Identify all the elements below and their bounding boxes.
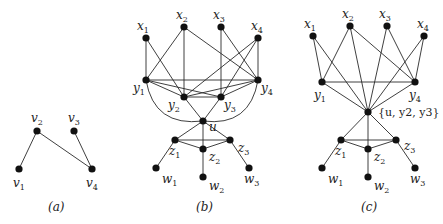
caption-c: (c) — [361, 200, 377, 214]
node-c-x4 — [420, 32, 427, 39]
node-c-z3 — [392, 136, 399, 143]
node-a-v4 — [88, 165, 95, 172]
node-c-z1 — [337, 136, 344, 143]
label-b-x3: x3 — [213, 8, 225, 24]
label-c-z3: z3 — [403, 139, 415, 155]
edge-a-v2-v4 — [37, 131, 92, 169]
label-b-x2: x2 — [176, 8, 188, 24]
label-b-w2: w2 — [209, 179, 224, 195]
figure-graphs: v1v2v3v4x1x2x3x4y1y2y3y4uz1z2z3w1w2w3x1x… — [0, 0, 443, 224]
node-a-v1 — [15, 165, 22, 172]
node-c-w2 — [364, 173, 371, 180]
graph-figure-svg: v1v2v3v4x1x2x3x4y1y2y3y4uz1z2z3w1w2w3x1x… — [0, 0, 443, 224]
label-b-y3: y3 — [223, 98, 236, 114]
node-b-y1 — [142, 76, 149, 83]
edge-b-u-z1 — [175, 121, 203, 140]
node-c-z2 — [364, 145, 371, 152]
label-b-x1: x1 — [137, 19, 149, 35]
label-c-y1: y1 — [313, 88, 326, 104]
edge-b-y3-u — [203, 97, 221, 121]
label-b-w3: w3 — [244, 172, 259, 188]
edge-b-z1-z2 — [175, 140, 203, 149]
label-a-v3: v3 — [68, 111, 80, 127]
label-b-u: u — [209, 120, 217, 134]
label-b-z3: z3 — [237, 141, 249, 157]
node-c-w1 — [318, 164, 325, 171]
node-b-z2 — [199, 145, 206, 152]
node-c-m — [364, 108, 371, 115]
node-b-x1 — [142, 34, 149, 41]
node-c-y1 — [318, 78, 325, 85]
node-b-x4 — [254, 34, 261, 41]
node-b-x2 — [180, 23, 187, 30]
node-b-x3 — [217, 23, 224, 30]
label-c-m: {u, y2, y3} — [378, 106, 440, 119]
edge-c-m-z1 — [341, 112, 368, 140]
node-b-z1 — [171, 136, 178, 143]
node-a-v2 — [33, 127, 40, 134]
edge-c-y1-m — [322, 82, 368, 112]
label-c-z1: z1 — [334, 144, 346, 160]
label-c-w2: w2 — [374, 179, 389, 195]
node-b-u — [199, 117, 206, 124]
label-b-z1: z1 — [168, 144, 180, 160]
label-b-z2: z2 — [208, 150, 220, 166]
label-b-y4: y4 — [260, 81, 273, 97]
label-a-v4: v4 — [86, 176, 98, 192]
node-b-z3 — [226, 136, 233, 143]
node-b-w3 — [245, 164, 252, 171]
edge-b-x2-y1 — [146, 27, 184, 80]
edge-a-v1-v2 — [19, 131, 37, 169]
label-c-y4: y4 — [408, 88, 421, 104]
node-c-w3 — [411, 164, 418, 171]
label-a-v1: v1 — [13, 176, 25, 192]
edge-c-z1-z2 — [341, 140, 368, 149]
label-c-x3: x3 — [379, 7, 391, 23]
label-b-y2: y2 — [167, 98, 180, 114]
node-b-w1 — [152, 164, 159, 171]
label-c-x2: x2 — [342, 7, 354, 23]
caption-b: (b) — [196, 200, 213, 214]
caption-a: (a) — [48, 200, 65, 214]
label-c-x1: x1 — [304, 17, 316, 33]
node-c-x3 — [383, 22, 390, 29]
node-c-y4 — [411, 78, 418, 85]
label-c-z2: z2 — [373, 150, 385, 166]
label-a-v2: v2 — [31, 111, 43, 127]
node-c-x2 — [346, 22, 353, 29]
edge-b-z2-z3 — [203, 140, 230, 149]
label-b-w1: w1 — [162, 172, 177, 188]
edge-c-x4-y4 — [415, 36, 424, 82]
label-c-w1: w1 — [328, 172, 343, 188]
label-c-w3: w3 — [410, 172, 425, 188]
node-b-w2 — [199, 173, 206, 180]
node-b-y2 — [180, 93, 187, 100]
node-a-v3 — [70, 127, 77, 134]
label-b-y1: y1 — [132, 81, 145, 97]
edge-b-x3-y4 — [221, 27, 258, 80]
label-c-x4: x4 — [417, 17, 429, 33]
edge-c-z2-z3 — [368, 140, 396, 149]
label-b-x4: x4 — [251, 19, 263, 35]
node-c-x1 — [309, 32, 316, 39]
edges-layer — [19, 26, 424, 177]
edge-b-y2-u — [184, 97, 203, 121]
